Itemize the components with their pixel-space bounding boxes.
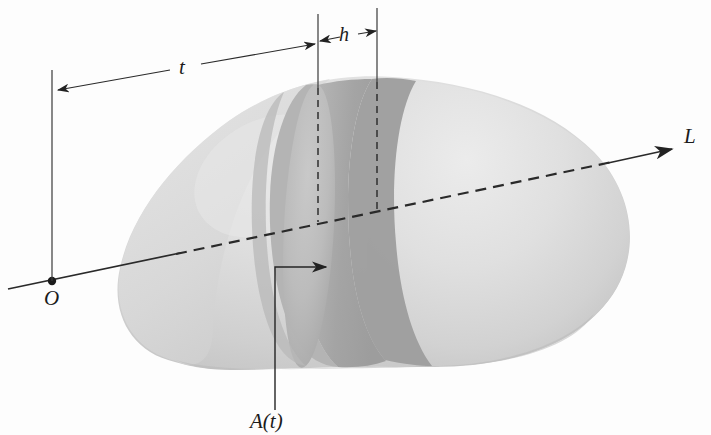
axis-line-arrow	[608, 149, 672, 163]
axis-label-L: L	[683, 124, 696, 148]
dimension-h: h	[320, 23, 376, 45]
dimension-h-line-right	[358, 31, 376, 34]
dimension-h-label: h	[339, 23, 349, 45]
dimension-t-label: t	[179, 55, 186, 79]
dimension-h-line-left	[320, 37, 340, 41]
cross-section-label: A(t)	[248, 409, 283, 433]
dimension-t-line-left	[58, 70, 170, 90]
cross-section-diagram: L O t h	[0, 0, 711, 435]
dimension-t: t	[58, 44, 315, 90]
solid-body	[117, 76, 629, 370]
origin-label: O	[44, 286, 59, 310]
figure-canvas: L O t h	[0, 0, 711, 435]
dimension-t-line-right	[201, 44, 315, 64]
